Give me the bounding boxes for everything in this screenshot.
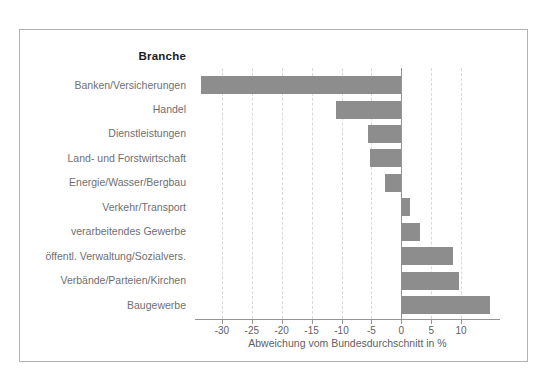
bar-verkehr-transport: [401, 198, 409, 216]
bar-dienstleistungen: [368, 125, 401, 143]
bar-verarbeitendes-gewerbe: [401, 223, 420, 241]
tick-label: -25: [237, 325, 267, 336]
category-label: Baugewerbe: [20, 299, 186, 312]
tick-mark: [222, 320, 223, 324]
tick-label: -15: [297, 325, 327, 336]
category-label: verarbeitendes Gewerbe: [20, 225, 186, 238]
category-label: Land- und Forstwirtschaft: [20, 152, 186, 165]
tick-mark: [282, 320, 283, 324]
category-label: öffentl. Verwaltung/Sozialvers.: [20, 250, 186, 263]
gridline: [222, 68, 223, 319]
tick-label: 10: [446, 325, 476, 336]
tick-mark: [401, 320, 402, 324]
chart-frame: Branche Banken/VersicherungenHandelDiens…: [19, 29, 528, 362]
category-label: Energie/Wasser/Bergbau: [20, 176, 186, 189]
tick-mark: [431, 320, 432, 324]
tick-mark: [252, 320, 253, 324]
tick-label: -10: [327, 325, 357, 336]
tick-label: -30: [207, 325, 237, 336]
tick-label: 0: [386, 325, 416, 336]
bar-verb-nde-parteien-kirchen: [401, 272, 459, 290]
tick-mark: [371, 320, 372, 324]
tick-label: 5: [416, 325, 446, 336]
bar-land-und-forstwirtschaft: [370, 149, 402, 167]
tick-label: -20: [267, 325, 297, 336]
gridline: [282, 68, 283, 319]
category-label: Verkehr/Transport: [20, 201, 186, 214]
gridline: [312, 68, 313, 319]
bar-baugewerbe: [401, 296, 490, 314]
x-axis-line: [195, 319, 500, 320]
tick-mark: [342, 320, 343, 324]
category-label: Banken/Versicherungen: [20, 79, 186, 92]
figure-canvas: Branche Banken/VersicherungenHandelDiens…: [0, 0, 546, 379]
chart-title: Branche: [20, 50, 186, 62]
gridline: [461, 68, 462, 319]
x-axis-title: Abweichung vom Bundesdurchschnitt in %: [195, 337, 500, 349]
tick-mark: [312, 320, 313, 324]
bar-banken-versicherungen: [201, 76, 401, 94]
bar-handel: [336, 101, 402, 119]
category-label: Verbände/Parteien/Kirchen: [20, 274, 186, 287]
gridline: [252, 68, 253, 319]
tick-mark: [461, 320, 462, 324]
bar-ffentl-verwaltung-sozialvers: [401, 247, 453, 265]
bar-energie-wasser-bergbau: [385, 174, 402, 192]
category-label: Handel: [20, 103, 186, 116]
tick-label: -5: [356, 325, 386, 336]
category-label: Dienstleistungen: [20, 127, 186, 140]
